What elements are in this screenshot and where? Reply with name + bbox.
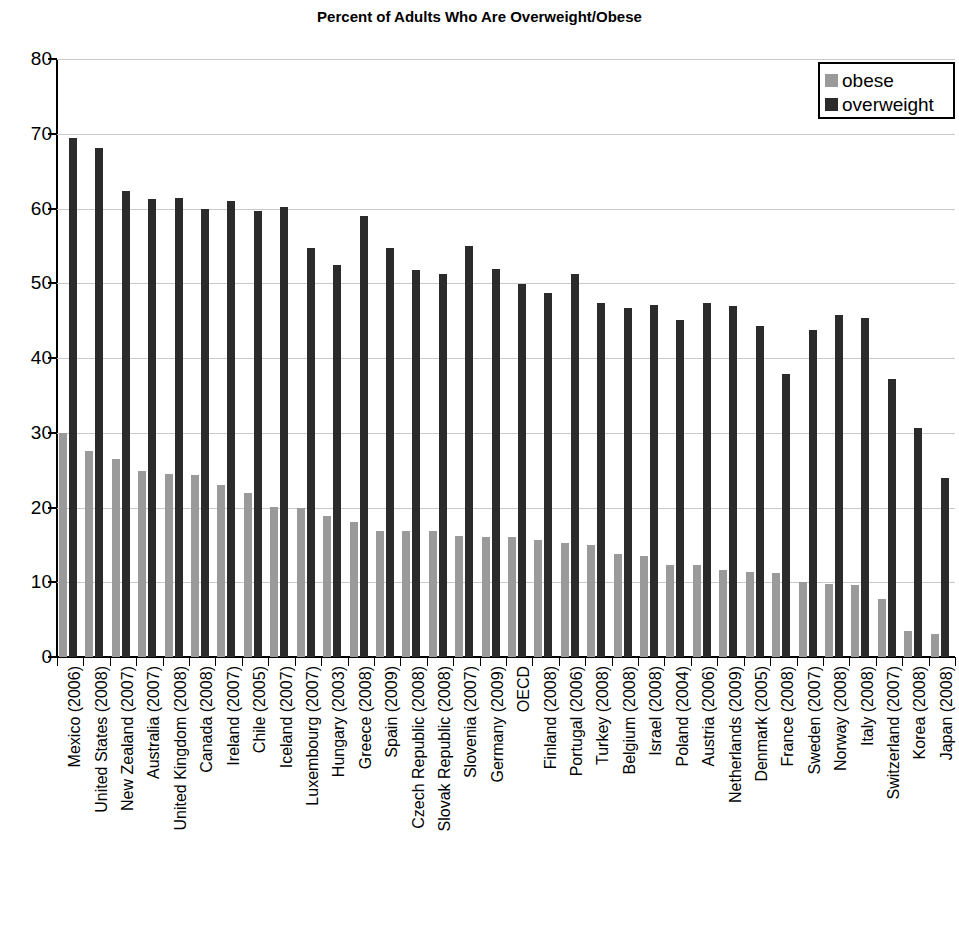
bar-obese[interactable] xyxy=(799,582,807,657)
bar-group[interactable] xyxy=(480,59,506,657)
bar-group[interactable] xyxy=(532,59,558,657)
bar-overweight[interactable] xyxy=(729,306,737,657)
bar-overweight[interactable] xyxy=(571,274,579,657)
bar-obese[interactable] xyxy=(85,451,93,657)
bar-overweight[interactable] xyxy=(544,293,552,657)
bar-obese[interactable] xyxy=(693,565,701,657)
bar-overweight[interactable] xyxy=(782,374,790,657)
bar-obese[interactable] xyxy=(138,471,146,657)
bar-overweight[interactable] xyxy=(835,315,843,657)
bar-group[interactable] xyxy=(374,59,400,657)
bar-overweight[interactable] xyxy=(597,303,605,657)
bar-overweight[interactable] xyxy=(888,379,896,657)
bar-obese[interactable] xyxy=(59,433,67,657)
bar-group[interactable] xyxy=(506,59,532,657)
bar-obese[interactable] xyxy=(482,537,490,657)
bar-obese[interactable] xyxy=(165,474,173,657)
bar-overweight[interactable] xyxy=(122,191,130,657)
bar-obese[interactable] xyxy=(878,599,886,657)
bar-obese[interactable] xyxy=(323,516,331,657)
bar-overweight[interactable] xyxy=(386,248,394,657)
bar-obese[interactable] xyxy=(931,634,939,657)
bar-overweight[interactable] xyxy=(756,326,764,657)
bar-overweight[interactable] xyxy=(492,269,500,657)
bar-group[interactable] xyxy=(559,59,585,657)
bar-overweight[interactable] xyxy=(676,320,684,657)
bar-group[interactable] xyxy=(136,59,162,657)
bar-overweight[interactable] xyxy=(914,428,922,657)
bar-group[interactable] xyxy=(110,59,136,657)
bar-obese[interactable] xyxy=(244,493,252,657)
bar-overweight[interactable] xyxy=(307,248,315,657)
bar-obese[interactable] xyxy=(508,537,516,657)
bar-obese[interactable] xyxy=(719,570,727,657)
bar-group[interactable] xyxy=(163,59,189,657)
bar-obese[interactable] xyxy=(429,531,437,657)
bar-overweight[interactable] xyxy=(624,308,632,657)
bar-overweight[interactable] xyxy=(227,201,235,657)
bar-obese[interactable] xyxy=(772,573,780,657)
bar-group[interactable] xyxy=(585,59,611,657)
bar-group[interactable] xyxy=(268,59,294,657)
bar-group[interactable] xyxy=(929,59,955,657)
bar-obese[interactable] xyxy=(191,475,199,657)
bar-obese[interactable] xyxy=(640,556,648,657)
bar-group[interactable] xyxy=(797,59,823,657)
bar-overweight[interactable] xyxy=(650,305,658,657)
bar-obese[interactable] xyxy=(534,540,542,657)
bar-overweight[interactable] xyxy=(95,148,103,657)
bar-overweight[interactable] xyxy=(703,303,711,657)
bar-group[interactable] xyxy=(902,59,928,657)
bar-obese[interactable] xyxy=(851,585,859,658)
bar-group[interactable] xyxy=(189,59,215,657)
bar-overweight[interactable] xyxy=(333,265,341,657)
bar-group[interactable] xyxy=(400,59,426,657)
bar-obese[interactable] xyxy=(666,565,674,657)
bar-obese[interactable] xyxy=(270,507,278,657)
bar-overweight[interactable] xyxy=(809,330,817,657)
bar-group[interactable] xyxy=(664,59,690,657)
bar-group[interactable] xyxy=(876,59,902,657)
bar-obese[interactable] xyxy=(297,508,305,657)
bar-overweight[interactable] xyxy=(254,211,262,657)
bar-overweight[interactable] xyxy=(412,270,420,657)
bar-obese[interactable] xyxy=(825,584,833,657)
bar-obese[interactable] xyxy=(350,522,358,657)
bar-group[interactable] xyxy=(427,59,453,657)
bar-obese[interactable] xyxy=(455,536,463,657)
bar-group[interactable] xyxy=(717,59,743,657)
bar-group[interactable] xyxy=(691,59,717,657)
bar-group[interactable] xyxy=(321,59,347,657)
bar-obese[interactable] xyxy=(904,631,912,657)
bar-obese[interactable] xyxy=(112,459,120,657)
bar-group[interactable] xyxy=(638,59,664,657)
bar-overweight[interactable] xyxy=(148,199,156,657)
bar-group[interactable] xyxy=(57,59,83,657)
bar-group[interactable] xyxy=(295,59,321,657)
bar-overweight[interactable] xyxy=(465,246,473,657)
bar-obese[interactable] xyxy=(376,531,384,657)
bar-group[interactable] xyxy=(823,59,849,657)
bar-obese[interactable] xyxy=(561,543,569,657)
bar-overweight[interactable] xyxy=(941,478,949,657)
bar-group[interactable] xyxy=(242,59,268,657)
bar-obese[interactable] xyxy=(587,545,595,657)
bar-group[interactable] xyxy=(83,59,109,657)
bar-group[interactable] xyxy=(612,59,638,657)
bar-group[interactable] xyxy=(215,59,241,657)
bar-obese[interactable] xyxy=(402,531,410,657)
bar-group[interactable] xyxy=(849,59,875,657)
bar-obese[interactable] xyxy=(614,554,622,657)
bar-group[interactable] xyxy=(770,59,796,657)
bar-overweight[interactable] xyxy=(69,138,77,658)
bar-group[interactable] xyxy=(453,59,479,657)
bar-obese[interactable] xyxy=(746,572,754,657)
bar-group[interactable] xyxy=(348,59,374,657)
bar-overweight[interactable] xyxy=(201,209,209,657)
bar-obese[interactable] xyxy=(217,485,225,657)
bar-group[interactable] xyxy=(744,59,770,657)
bar-overweight[interactable] xyxy=(360,216,368,657)
bar-overweight[interactable] xyxy=(518,284,526,657)
bar-overweight[interactable] xyxy=(280,207,288,657)
bar-overweight[interactable] xyxy=(439,274,447,657)
